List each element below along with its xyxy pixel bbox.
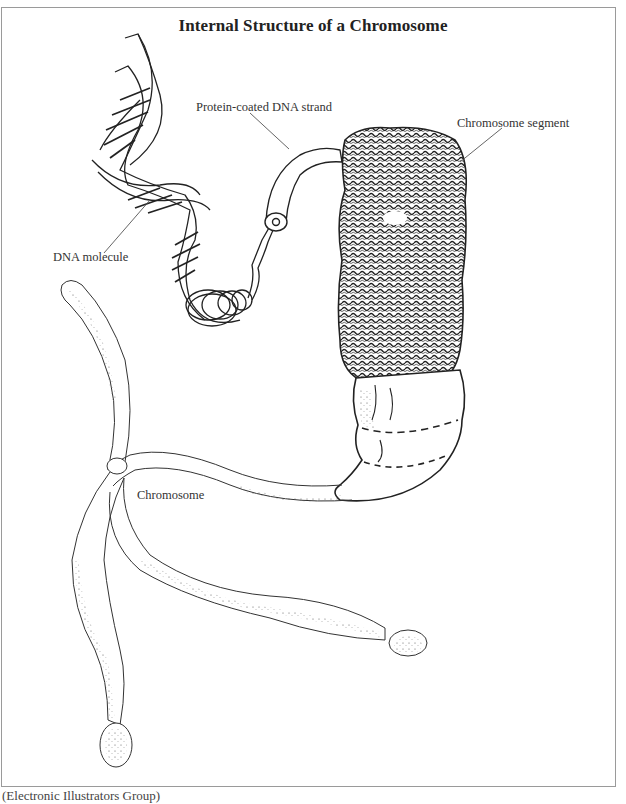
chromosome-segment bbox=[338, 128, 466, 381]
dna-molecule-leader bbox=[104, 200, 150, 253]
segment-leader bbox=[460, 128, 502, 162]
label-chromosome: Chromosome bbox=[137, 488, 204, 503]
dna-helix bbox=[92, 34, 276, 326]
strand-leader bbox=[250, 113, 289, 149]
label-protein-coated-dna-strand: Protein-coated DNA strand bbox=[196, 100, 332, 115]
protein-coated-strand bbox=[265, 148, 342, 231]
label-dna-molecule: DNA molecule bbox=[53, 250, 128, 265]
figure-caption: (Electronic Illustrators Group) bbox=[2, 788, 160, 804]
label-chromosome-segment: Chromosome segment bbox=[457, 116, 569, 131]
chromosome-sleeve bbox=[335, 370, 465, 501]
